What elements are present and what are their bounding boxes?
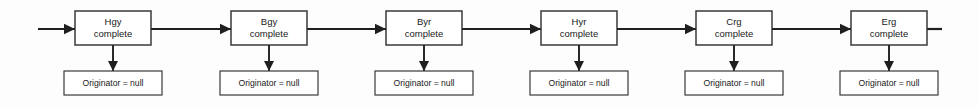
entry-arrow-icon [64,24,75,34]
note-label-4: Originator = null [549,78,610,88]
note-arrow-icon-4 [574,61,584,71]
state-node-4[interactable]: Hyrcomplete [541,11,617,45]
connector-arrow-icon-1-to-2 [220,24,231,34]
state-node-3[interactable]: Byrcomplete [386,11,462,45]
note-arrow-icon-2 [264,61,274,71]
diagram-canvas: HgycompleteOriginator = nullBgycompleteO… [0,0,978,108]
note-label-6: Originator = null [859,78,920,88]
note-label-5: Originator = null [704,78,765,88]
note-arrow-icon-3 [419,61,429,71]
state-status-label-4: complete [560,28,599,39]
state-status-label-3: complete [405,28,444,39]
connector-arrow-icon-5-to-6 [840,24,851,34]
note-node-4: Originator = null [530,71,628,95]
state-label-6: Erg [882,16,897,27]
state-node-6[interactable]: Ergcomplete [851,11,927,45]
note-node-6: Originator = null [840,71,938,95]
state-label-3: Byr [417,16,431,27]
state-label-2: Bgy [261,16,278,27]
note-node-3: Originator = null [375,71,473,95]
state-label-5: Crg [726,16,741,27]
state-status-label-5: complete [715,28,754,39]
note-label-2: Originator = null [239,78,300,88]
state-node-1[interactable]: Hgycomplete [75,11,151,45]
note-node-2: Originator = null [220,71,318,95]
state-status-label-2: complete [250,28,289,39]
state-status-label-6: complete [870,28,909,39]
note-label-3: Originator = null [394,78,455,88]
state-chain-diagram: HgycompleteOriginator = nullBgycompleteO… [0,0,978,108]
note-arrow-icon-1 [108,61,118,71]
state-label-1: Hgy [105,16,122,27]
note-arrow-icon-6 [884,61,894,71]
note-node-5: Originator = null [685,71,783,95]
note-node-1: Originator = null [64,71,162,95]
state-status-label-1: complete [94,28,133,39]
connector-arrow-icon-2-to-3 [375,24,386,34]
state-label-4: Hyr [572,16,587,27]
connector-arrow-icon-4-to-5 [685,24,696,34]
note-arrow-icon-5 [729,61,739,71]
state-node-5[interactable]: Crgcomplete [696,11,772,45]
connector-arrow-icon-3-to-4 [530,24,541,34]
state-node-2[interactable]: Bgycomplete [231,11,307,45]
note-label-1: Originator = null [83,78,144,88]
